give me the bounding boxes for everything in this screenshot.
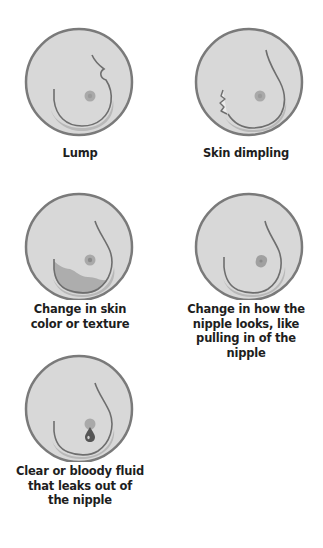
caption-line: Change in how the <box>166 302 323 317</box>
caption-skin-dimpling: Skin dimpling <box>166 146 323 161</box>
caption-nipple-change: Change in how the nipple looks, like pul… <box>166 302 323 360</box>
breast-fluid-illustration <box>0 327 160 462</box>
breast-lump-illustration <box>0 0 160 145</box>
breast-skin-color-illustration <box>0 165 160 300</box>
caption-line: the nipple <box>0 493 160 508</box>
caption-nipple-fluid: Clear or bloody fluid that leaks out of … <box>0 464 160 508</box>
breast-dimpling-illustration <box>163 0 323 145</box>
caption-line: nipple <box>166 346 323 361</box>
sign-nipple-change: Change in how the nipple looks, like pul… <box>163 165 323 365</box>
caption-line: nipple looks, like <box>166 317 323 332</box>
caption-line: Change in skin <box>0 302 160 317</box>
breast-nipple-change-illustration <box>163 165 323 300</box>
sign-skin-color-texture: Change in skin color or texture <box>0 165 160 345</box>
sign-lump: Lump <box>0 0 160 175</box>
caption-line: that leaks out of <box>0 479 160 494</box>
caption-line: pulling in of the <box>166 331 323 346</box>
sign-nipple-fluid: Clear or bloody fluid that leaks out of … <box>0 327 160 527</box>
caption-lump: Lump <box>0 146 160 161</box>
caption-line: Clear or bloody fluid <box>0 464 160 479</box>
sign-skin-dimpling: Skin dimpling <box>163 0 323 175</box>
